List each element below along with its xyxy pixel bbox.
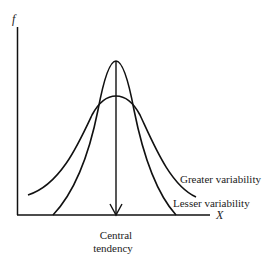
variability-diagram: f X Greater variability Lesser variabili… [0, 0, 269, 262]
y-axis-label: f [12, 12, 17, 26]
lesser-variability-label: Lesser variability [173, 197, 250, 209]
x-axis-label: X [215, 208, 224, 222]
greater-variability-label: Greater variability [180, 173, 261, 185]
central-tendency-label-line1: Central [100, 229, 132, 241]
lesser-variability-curve [53, 61, 176, 215]
central-tendency-label-line2: tendency [93, 242, 133, 254]
greater-variability-curve [28, 96, 196, 197]
